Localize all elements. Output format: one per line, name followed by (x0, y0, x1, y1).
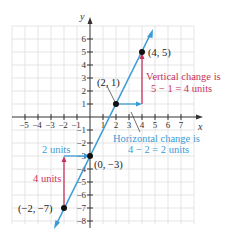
svg-text:7: 7 (179, 120, 184, 130)
x-axis-arrow-icon (196, 115, 203, 120)
svg-text:6: 6 (166, 120, 171, 130)
x-axis-label: x (197, 121, 203, 132)
svg-text:−8: −8 (76, 216, 86, 226)
svg-text:1: 1 (82, 99, 87, 109)
svg-text:−5: −5 (19, 120, 29, 130)
svg-text:−2: −2 (58, 120, 68, 130)
svg-text:5: 5 (153, 120, 158, 130)
label-point-2-1: (2, 1) (97, 77, 120, 89)
leader-line-point-2-1 (107, 86, 115, 102)
svg-text:−1: −1 (76, 125, 86, 135)
point-neg2-neg7 (61, 205, 67, 211)
y-axis-label: y (79, 11, 85, 22)
svg-text:3: 3 (82, 73, 87, 83)
point-4-5 (139, 49, 145, 55)
line-y-equals-2x-minus-3 (54, 29, 153, 229)
svg-text:5: 5 (82, 47, 87, 57)
label-point-0-neg3: (0, −3) (94, 159, 123, 171)
line-arrow-up-icon (147, 29, 153, 38)
label-point-neg2-neg7: (−2, −7) (18, 203, 53, 215)
vertical-change-text-1: Vertical change is (146, 71, 221, 82)
label-point-4-5: (4, 5) (148, 47, 171, 59)
svg-text:3: 3 (127, 120, 132, 130)
two-units-text: 2 units (42, 144, 70, 155)
point-2-1 (113, 101, 119, 107)
svg-text:6: 6 (82, 34, 87, 44)
svg-text:−2: −2 (76, 138, 86, 148)
svg-text:2: 2 (114, 120, 119, 130)
vertical-change-text-2: 5 − 1 = 4 units (151, 83, 212, 94)
leader-line-horizontal (131, 112, 140, 132)
y-tick-labels: 1 2 3 4 5 6 −1 −2 −3 −4 −5 −6 −7 −8 (76, 34, 86, 226)
y-axis-arrow-icon (88, 17, 93, 24)
svg-text:−7: −7 (76, 203, 86, 213)
horizontal-change-text-1: Horizontal change is (113, 133, 200, 144)
svg-text:2: 2 (82, 86, 87, 96)
four-units-text: 4 units (33, 173, 61, 184)
x-tick-labels: −5 −4 −3 −2 −1 1 2 3 4 5 6 7 (19, 120, 184, 130)
svg-text:−4: −4 (32, 120, 42, 130)
coordinate-plane: x y −5 −4 −3 −2 −1 1 2 3 4 5 6 7 1 2 3 4… (0, 0, 236, 249)
svg-text:−6: −6 (76, 190, 86, 200)
svg-text:4: 4 (140, 120, 145, 130)
svg-text:4: 4 (82, 60, 87, 70)
point-0-neg3 (87, 153, 93, 159)
svg-text:−3: −3 (45, 120, 55, 130)
vertical-change-arrow (140, 53, 145, 104)
horizontal-change-text-2: 4 − 2 = 2 units (128, 144, 189, 155)
